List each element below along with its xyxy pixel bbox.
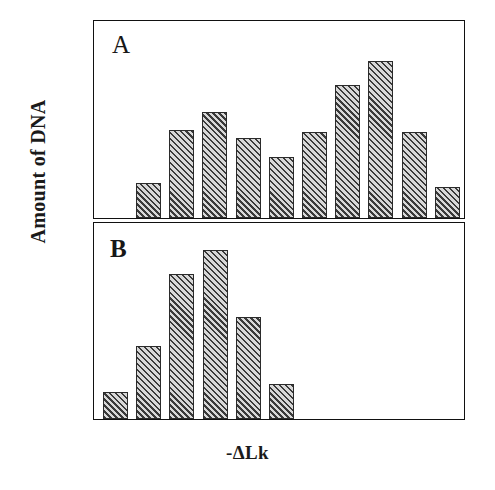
bar xyxy=(169,274,194,419)
bar xyxy=(335,85,360,218)
bar xyxy=(302,132,327,218)
panel-b: B xyxy=(93,222,465,420)
panel-b-plot-area xyxy=(94,223,464,419)
bar xyxy=(136,346,161,419)
bar xyxy=(103,392,128,419)
bar xyxy=(202,112,227,218)
bar xyxy=(136,183,161,218)
y-axis-label: Amount of DNA xyxy=(27,62,50,282)
figure-container: Amount of DNA A B -ΔLk xyxy=(0,0,495,490)
bar xyxy=(269,157,294,218)
bar xyxy=(269,384,294,419)
bar xyxy=(169,130,194,218)
panel-a-plot-area xyxy=(94,21,464,218)
bar xyxy=(236,138,261,218)
bar xyxy=(203,250,228,419)
bar xyxy=(236,317,261,419)
panel-a: A xyxy=(93,20,465,219)
bar xyxy=(402,132,427,218)
x-axis-label: -ΔLk xyxy=(0,442,495,464)
bar xyxy=(368,61,393,218)
bar xyxy=(435,187,460,218)
